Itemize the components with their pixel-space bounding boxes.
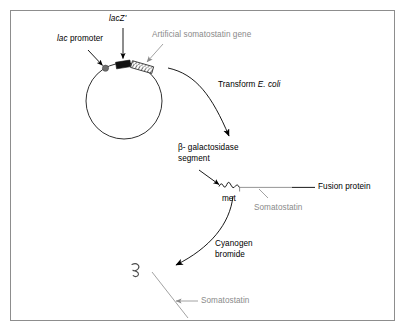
lac-italic: lac — [57, 34, 68, 43]
lacz-prime-label: lacZ' — [109, 14, 126, 25]
ecoli-name: E. coli — [258, 80, 281, 89]
beta-galactosidase-segment-label: β- galactosidase segment — [178, 143, 239, 164]
lacz-prime-mark: ' — [125, 14, 127, 23]
artificial-gene-label: Artificial somatostatin gene — [152, 30, 251, 41]
transform-word: Transform — [218, 80, 258, 89]
fusion-protein-label: Fusion protein — [318, 182, 371, 193]
somatostatin-free-label: Somatostatin — [201, 296, 249, 307]
cyanogen-bromide-label: Cyanogen bromide — [215, 239, 253, 260]
somatostatin-fusion-label: Somatostatin — [254, 203, 302, 214]
transform-label: Transform E. coli — [218, 80, 280, 91]
promoter-word: promoter — [68, 34, 104, 43]
figure-border-frame — [10, 10, 395, 321]
lac-promoter-label: lac promoter — [57, 34, 103, 45]
met-label: met — [222, 194, 236, 205]
somatostatin-production-figure: lacZ' lac promoter Artificial somatostat… — [0, 0, 409, 333]
lacz-gene-name: lacZ — [109, 14, 125, 23]
